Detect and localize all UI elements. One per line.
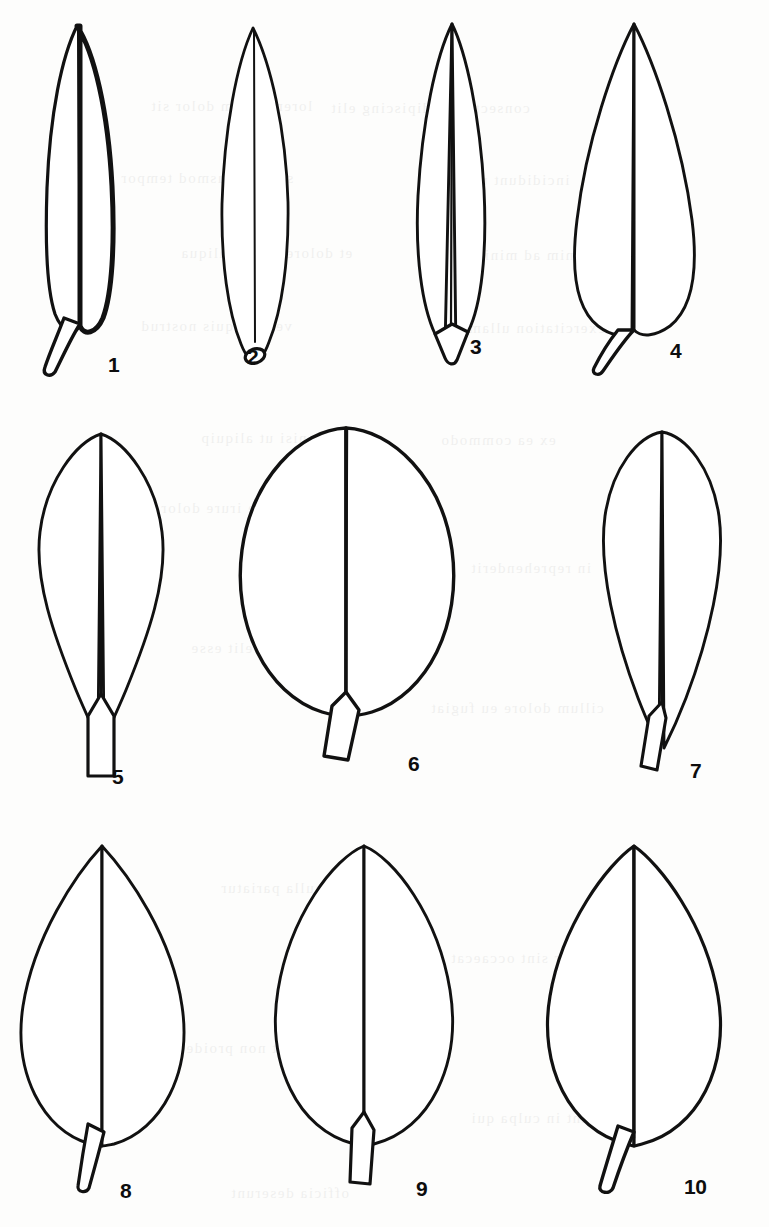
- figure-2: [196, 22, 316, 372]
- figure-label-7: 7: [690, 760, 701, 781]
- figure-8: [10, 838, 220, 1198]
- figure-label-9: 9: [416, 1178, 427, 1199]
- figure-10: [528, 838, 743, 1198]
- figure-label-8: 8: [120, 1180, 131, 1201]
- bleed-line: in reprehenderit: [470, 560, 591, 577]
- figure-label-6: 6: [408, 753, 419, 774]
- figure-5: [20, 428, 180, 788]
- figure-label-3: 3: [470, 336, 481, 357]
- figure-label-2: 2: [247, 346, 258, 367]
- figure-label-5: 5: [112, 766, 123, 787]
- figure-label-1: 1: [108, 354, 119, 375]
- figure-9: [258, 838, 473, 1198]
- figure-1: [24, 18, 154, 378]
- figure-label-10: 10: [684, 1176, 706, 1197]
- figure-6: [228, 420, 478, 770]
- figure-label-4: 4: [670, 340, 681, 361]
- figure-4: [556, 18, 746, 378]
- figure-3: [396, 18, 526, 378]
- leaf-plate: lorem ipsum dolor sitconsectetur adipisc…: [0, 0, 769, 1227]
- figure-7: [578, 424, 738, 779]
